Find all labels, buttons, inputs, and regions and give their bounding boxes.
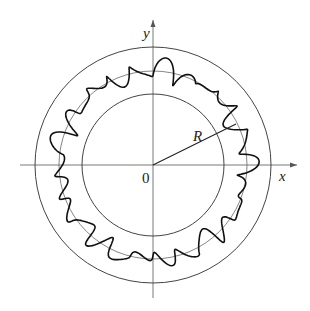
y-axis-label: y bbox=[141, 25, 150, 41]
origin-label: 0 bbox=[142, 170, 150, 186]
circle-diagram: y x 0 R bbox=[0, 0, 310, 311]
diagram-container: y x 0 R bbox=[0, 0, 310, 311]
x-axis-arrow-icon bbox=[290, 163, 297, 168]
radius-label: R bbox=[192, 128, 202, 144]
y-axis-arrow-icon bbox=[151, 20, 156, 27]
x-axis-label: x bbox=[278, 168, 286, 184]
